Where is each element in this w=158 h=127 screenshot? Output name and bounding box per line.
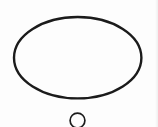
small-circle-outline <box>70 113 85 127</box>
drawing-canvas <box>0 0 158 127</box>
ellipse-and-circle-drawing <box>0 0 158 127</box>
large-ellipse-outline <box>14 17 141 98</box>
